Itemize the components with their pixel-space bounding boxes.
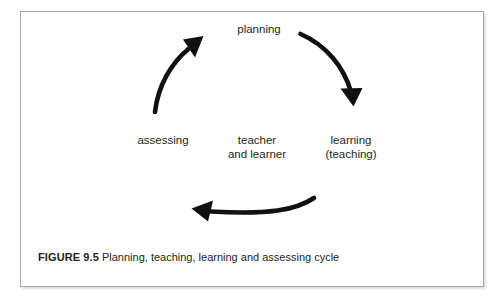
figure-caption-text: Planning, teaching, learning and assessi…	[102, 251, 339, 263]
arrow-planning-to-learning	[301, 34, 363, 107]
arrow-assessing-to-planning	[155, 36, 204, 112]
figure-caption-label: FIGURE 9.5	[38, 251, 99, 263]
node-label-learning-line2: (teaching)	[325, 147, 376, 161]
node-label-learning-line1: learning	[325, 133, 376, 147]
node-label-assessing: assessing	[137, 133, 188, 147]
node-label-planning-text: planning	[237, 23, 280, 35]
center-label-line2: and learner	[228, 147, 286, 161]
node-label-planning: planning	[237, 22, 280, 36]
figure-frame: planning assessing teacher and learner l…	[20, 11, 484, 287]
center-label-line1: teacher	[228, 133, 286, 147]
node-label-learning: learning (teaching)	[325, 133, 376, 161]
figure-caption: FIGURE 9.5 Planning, teaching, learning …	[38, 250, 339, 264]
arrow-learning-to-assessing	[192, 198, 315, 222]
node-label-assessing-text: assessing	[137, 134, 188, 146]
center-label: teacher and learner	[228, 133, 286, 161]
figure-root: planning assessing teacher and learner l…	[0, 0, 504, 300]
